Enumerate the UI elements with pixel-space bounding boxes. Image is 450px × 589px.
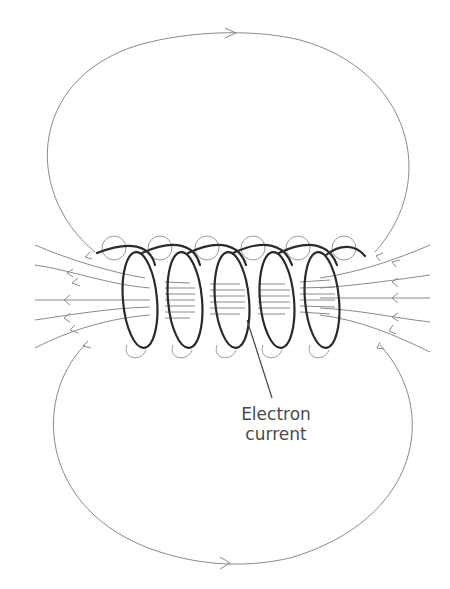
label-line-2: current xyxy=(228,424,324,444)
electron-current-label: Electron current xyxy=(228,404,324,444)
leader-line xyxy=(247,320,272,398)
solenoid-coil xyxy=(97,245,365,349)
solenoid-diagram: Electron current xyxy=(0,0,450,589)
left-field-lines xyxy=(35,245,150,348)
bottom-field-loop xyxy=(53,345,412,569)
field-drawing xyxy=(0,0,450,589)
wire-loops-bottom xyxy=(126,345,329,358)
top-field-loop xyxy=(47,28,409,252)
label-line-1: Electron xyxy=(228,404,324,424)
arrow-right-icon xyxy=(220,557,230,569)
